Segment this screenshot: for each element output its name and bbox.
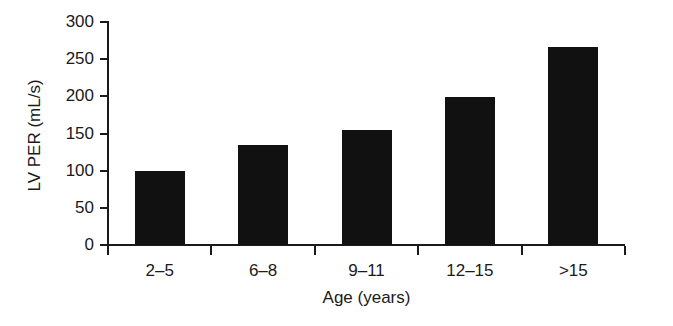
y-axis-title: LV PER (mL/s) — [26, 36, 43, 236]
x-axis-tick — [624, 246, 626, 255]
x-axis-category-label: 6–8 — [203, 262, 323, 279]
y-axis-tick-label: 0 — [30, 236, 94, 253]
x-axis-tick — [417, 246, 419, 255]
x-axis-tick — [107, 246, 109, 255]
x-axis-category-label: >15 — [513, 262, 633, 279]
x-axis-tick — [210, 246, 212, 255]
x-axis-category-label: 12–15 — [410, 262, 530, 279]
x-axis-category-label: 9–11 — [307, 262, 427, 279]
y-axis-tick-label: 300 — [30, 13, 94, 30]
plot-area — [108, 22, 625, 245]
bar — [548, 47, 598, 245]
bar — [135, 171, 185, 245]
x-axis-tick — [314, 246, 316, 255]
bar — [238, 145, 288, 245]
x-axis-category-label: 2–5 — [100, 262, 220, 279]
bar — [342, 130, 392, 245]
bar-chart-figure: 050100150200250300 2–56–89–1112–15>15 Ag… — [0, 0, 673, 326]
x-axis-title: Age (years) — [108, 289, 625, 306]
x-axis-tick — [521, 246, 523, 255]
bar — [445, 97, 495, 245]
